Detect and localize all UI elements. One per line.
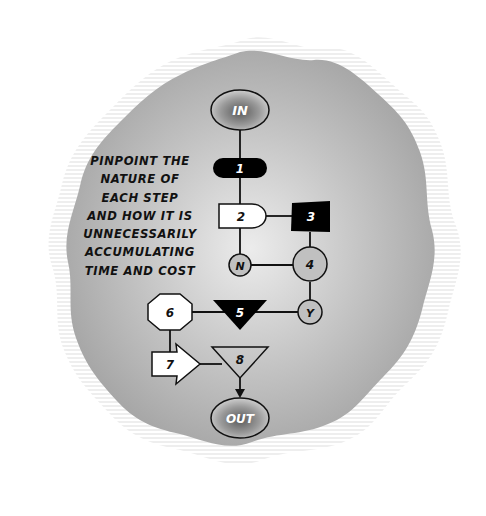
- caption-line: PINPOINT THE: [70, 152, 210, 170]
- node-4-label: 4: [305, 258, 314, 272]
- node-1-label: 1: [236, 162, 244, 176]
- diagram-canvas: IN 1 2 3 N 4 Y 5 6 7: [0, 0, 486, 516]
- caption-line: TIME AND COST: [70, 262, 210, 280]
- decision-no[interactable]: N: [229, 254, 251, 276]
- node-2-label: 2: [237, 210, 245, 224]
- end-label: OUT: [226, 412, 255, 426]
- node-3-storage[interactable]: 3: [291, 201, 330, 232]
- node-8-label: 8: [236, 353, 244, 367]
- caption-line: EACH STEP: [70, 189, 210, 207]
- decision-yes[interactable]: Y: [298, 300, 322, 324]
- node-1-operation[interactable]: 1: [213, 158, 267, 178]
- node-7-label: 7: [166, 358, 175, 372]
- node-4-inspection[interactable]: 4: [293, 247, 327, 281]
- start-node-in[interactable]: IN: [211, 90, 269, 130]
- caption-text: PINPOINT THE NATURE OF EACH STEP AND HOW…: [70, 152, 210, 280]
- caption-line: NATURE OF: [70, 170, 210, 188]
- node-6-octagon[interactable]: 6: [148, 294, 192, 330]
- node-2-delay[interactable]: 2: [219, 204, 266, 228]
- caption-line: AND HOW IT IS: [70, 207, 210, 225]
- start-label: IN: [232, 103, 248, 118]
- node-3-label: 3: [307, 210, 315, 224]
- caption-line: UNNECESSARILY: [70, 225, 210, 243]
- end-node-out[interactable]: OUT: [211, 398, 269, 438]
- caption-line: ACCUMULATING: [70, 243, 210, 261]
- yes-label: Y: [306, 307, 315, 320]
- no-label: N: [235, 260, 244, 273]
- node-5-label: 5: [236, 306, 244, 320]
- node-6-label: 6: [166, 306, 174, 320]
